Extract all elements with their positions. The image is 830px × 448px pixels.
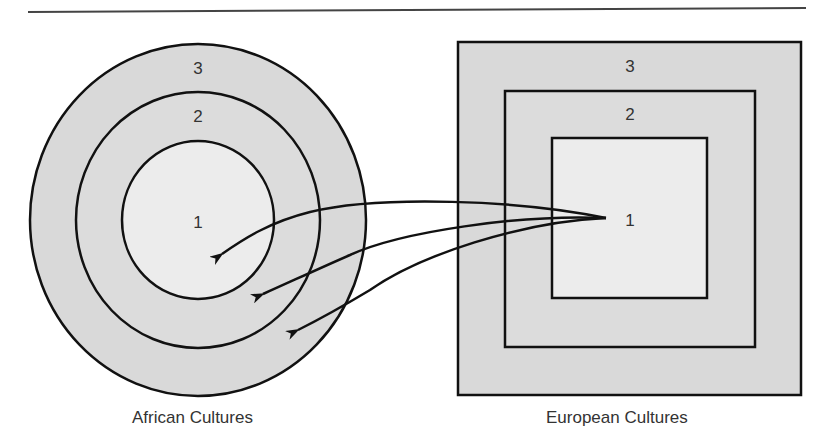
european-cultures-caption: European Cultures xyxy=(546,408,688,428)
african-ring-3-label: 3 xyxy=(193,59,202,78)
african-ring-2-label: 2 xyxy=(193,107,202,126)
european-ring-3-label: 3 xyxy=(625,57,634,76)
african-circles: 3 2 1 xyxy=(30,44,366,396)
african-cultures-caption: African Cultures xyxy=(132,408,253,428)
top-rule xyxy=(28,8,806,12)
european-ring-2-label: 2 xyxy=(625,105,634,124)
european-ring-1-label: 1 xyxy=(625,211,634,230)
culture-comparison-diagram: 3 2 1 3 2 1 xyxy=(0,0,830,448)
african-ring-1-label: 1 xyxy=(193,213,202,232)
european-squares: 3 2 1 xyxy=(458,42,801,395)
